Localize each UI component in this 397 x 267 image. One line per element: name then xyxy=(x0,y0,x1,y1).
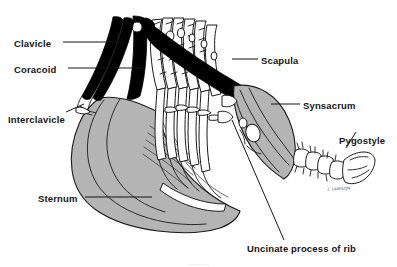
label-synsacrum: Synsacrum xyxy=(303,100,356,111)
bird-skeleton-illustration: .bone { fill:#b4b4b4; stroke:#1a1a1a; st… xyxy=(0,0,397,267)
caudal-vertebrae xyxy=(294,142,375,184)
pelvic-process xyxy=(218,95,237,123)
label-clavicle: Clavicle xyxy=(14,38,51,49)
label-pygostyle: Pygostyle xyxy=(339,135,385,146)
page-footer-ghost-text: ........... xyxy=(0,259,397,267)
label-uncinate-process-of-rib: Uncinate process of rib xyxy=(247,243,356,254)
label-sternum: Sternum xyxy=(38,193,78,204)
label-interclavicle: Interclavicle xyxy=(8,114,65,125)
synsacrum-bone xyxy=(234,85,296,179)
anatomical-diagram-figure: .bone { fill:#b4b4b4; stroke:#1a1a1a; st… xyxy=(0,0,397,267)
label-scapula: Scapula xyxy=(261,55,298,66)
label-coracoid: Coracoid xyxy=(14,64,56,75)
